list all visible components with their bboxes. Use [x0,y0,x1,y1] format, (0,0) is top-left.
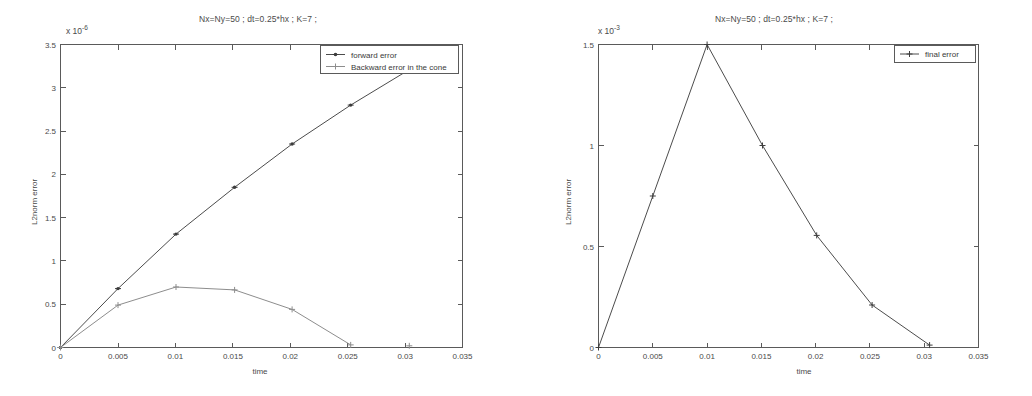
svg-text:2: 2 [52,170,57,179]
svg-text:0.02: 0.02 [808,352,824,361]
legend-label-final-error: final error [925,50,959,59]
series-final-error-markers [596,42,933,351]
svg-text:0: 0 [596,352,601,361]
chart-legend[interactable]: forward error Backward error in the cone [321,46,459,74]
svg-text:3: 3 [52,84,57,93]
svg-text:0.02: 0.02 [283,352,299,361]
chart-legend[interactable]: final error [895,46,976,63]
series-backward-error [61,287,351,348]
svg-text:0.035: 0.035 [452,352,473,361]
svg-text:0: 0 [52,344,57,353]
plot-area-right: 0 0.005 0.01 0.015 0.02 0.025 0.03 0.035… [516,0,1032,396]
svg-text:0.015: 0.015 [751,352,772,361]
svg-text:0: 0 [590,344,595,353]
svg-text:0.01: 0.01 [168,352,184,361]
svg-text:0.025: 0.025 [338,352,359,361]
svg-text:1.5: 1.5 [583,41,595,50]
forward-backward-error-figure: Nx=Ny=50 ; dt=0.25*hx ; K=7 ; x 10-6 L2n… [0,0,516,396]
svg-text:0.005: 0.005 [643,352,664,361]
svg-text:0.03: 0.03 [397,352,413,361]
series-backward-error-markers [58,284,413,351]
svg-text:3.5: 3.5 [45,41,57,50]
svg-text:2.5: 2.5 [45,127,57,136]
svg-text:1.5: 1.5 [45,214,57,223]
final-error-figure: Nx=Ny=50 ; dt=0.25*hx ; K=7 ; x 10-3 L2n… [516,0,1032,396]
svg-text:0.5: 0.5 [583,243,595,252]
svg-text:0.01: 0.01 [699,352,715,361]
x-tick-labels: 0 0.005 0.01 0.015 0.02 0.025 0.03 0.035 [58,352,473,361]
svg-text:0.035: 0.035 [968,352,989,361]
svg-text:0: 0 [58,352,63,361]
axes-frame [61,45,463,348]
plot-area-left: 0 0.005 0.01 0.015 0.02 0.025 0.03 0.035… [0,0,516,396]
series-forward-error [61,70,410,348]
y-tick-labels: 0 0.5 1 1.5 [583,41,595,353]
svg-text:0.03: 0.03 [916,352,932,361]
legend-label-forward-error: forward error [351,51,397,60]
x-tick-labels: 0 0.005 0.01 0.015 0.02 0.025 0.03 0.035 [596,352,989,361]
figure-page: Nx=Ny=50 ; dt=0.25*hx ; K=7 ; x 10-6 L2n… [0,0,1032,396]
svg-text:1: 1 [590,142,595,151]
y-tick-labels: 0 0.5 1 1.5 2 2.5 3 3.5 [45,41,57,353]
legend-label-backward-error: Backward error in the cone [351,63,447,72]
series-final-error [599,45,930,348]
svg-text:0.015: 0.015 [223,352,244,361]
svg-text:1: 1 [52,257,57,266]
y-tick-marks [61,45,463,348]
x-tick-marks [61,45,463,348]
svg-text:0.5: 0.5 [45,300,57,309]
svg-text:0.025: 0.025 [860,352,881,361]
series-forward-error-markers [58,68,413,349]
svg-text:0.005: 0.005 [108,352,129,361]
